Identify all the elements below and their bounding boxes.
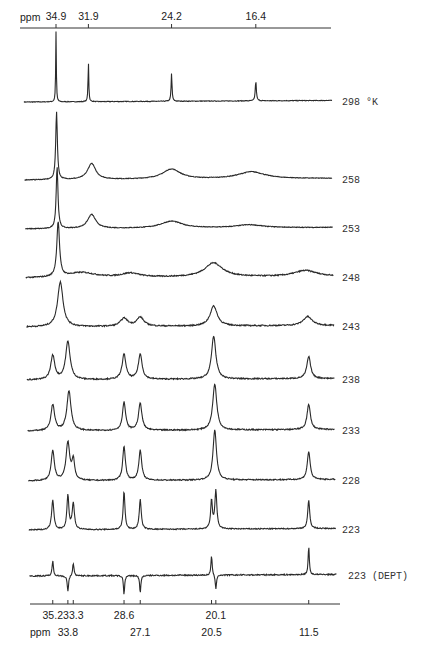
bottom-tick-label: 28.6 — [114, 609, 135, 621]
bottom-tick-label: 11.5 — [299, 626, 319, 638]
spectrum-trace — [28, 430, 335, 481]
spectrum-trace — [25, 167, 333, 229]
top-axis-ticks: 34.931.924.216.4 — [46, 10, 266, 28]
spectrum-trace — [25, 112, 333, 180]
bottom-tick-label: 33.3 — [63, 609, 84, 621]
spectrum-trace — [28, 385, 335, 432]
temperature-label: 238 — [342, 375, 360, 386]
bottom-axis-ticks: 35.233.328.620.133.827.120.511.5 — [43, 600, 319, 638]
spectrum-trace — [26, 222, 334, 278]
spectrum-trace — [29, 548, 336, 594]
spectrum-trace — [24, 32, 332, 103]
temperature-label: 298 °K — [342, 97, 378, 108]
spectrum-trace — [29, 489, 336, 530]
temperature-label: 223 (DEPT) — [348, 571, 408, 582]
temperature-label: 253 — [342, 224, 360, 235]
bottom-tick-label: 33.8 — [58, 626, 79, 638]
spectra-traces — [24, 32, 336, 595]
spectrum-trace — [26, 282, 334, 328]
top-tick-label: 24.2 — [161, 10, 182, 22]
top-tick-label: 34.9 — [46, 10, 67, 22]
bottom-tick-label: 35.2 — [43, 609, 64, 621]
top-axis-unit-label: ppm — [20, 11, 41, 23]
top-tick-label: 31.9 — [78, 10, 99, 22]
top-tick-label: 16.4 — [246, 10, 267, 22]
temperature-label: 228 — [342, 476, 360, 487]
temperature-labels: 298 °K258253248243238233228223223 (DEPT) — [342, 97, 408, 582]
temperature-label: 223 — [342, 525, 360, 536]
bottom-tick-label: 20.5 — [201, 626, 222, 638]
top-axis: ppm 34.931.924.216.4 — [20, 10, 331, 28]
bottom-axis: ppm 35.233.328.620.133.827.120.511.5 — [30, 600, 340, 638]
temperature-label: 248 — [342, 273, 360, 284]
spectrum-trace — [27, 336, 335, 380]
temperature-label: 243 — [342, 322, 360, 333]
bottom-axis-unit-label: ppm — [30, 626, 51, 638]
nmr-variable-temperature-stack: ppm 34.931.924.216.4 298 °K2582532482432… — [0, 0, 421, 661]
temperature-label: 233 — [342, 426, 360, 437]
bottom-tick-label: 20.1 — [206, 609, 227, 621]
bottom-tick-label: 27.1 — [130, 626, 151, 638]
temperature-label: 258 — [342, 175, 360, 186]
